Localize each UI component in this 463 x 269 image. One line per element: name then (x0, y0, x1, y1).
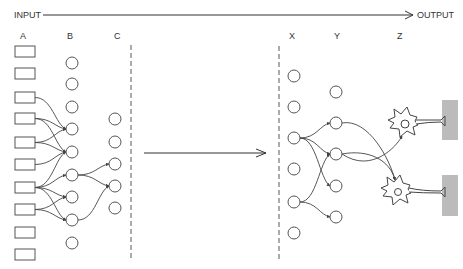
node-a-9 (15, 227, 35, 238)
node-c-3 (109, 158, 121, 170)
connection-6 (35, 152, 66, 188)
node-b-8 (66, 214, 78, 226)
node-a-6 (15, 159, 35, 170)
input-output-arrow (43, 11, 413, 19)
node-y-2 (330, 117, 342, 129)
node-x-3 (288, 132, 300, 144)
nucleus-icon (395, 189, 402, 196)
node-x-1 (288, 70, 300, 82)
connection-22 (342, 153, 395, 180)
connections (35, 98, 402, 221)
connection-7 (35, 175, 66, 188)
neural-pathway-diagram: INPUT OUTPUT A B C X Y Z (0, 0, 463, 269)
connection-9 (35, 188, 66, 221)
node-a-8 (15, 204, 35, 215)
connection-15 (300, 123, 330, 138)
connection-13 (78, 175, 109, 186)
motor-neuron-1 (388, 100, 457, 140)
node-b-6 (66, 169, 78, 181)
node-b-5 (66, 146, 78, 158)
connection-3 (35, 129, 66, 143)
node-a-10 (15, 249, 35, 260)
connection-20 (342, 123, 395, 180)
node-b-4 (66, 123, 78, 135)
connection-5 (35, 152, 66, 165)
column-label-a: A (20, 31, 26, 41)
node-a-7 (15, 182, 35, 193)
input-label: INPUT (14, 10, 42, 20)
node-b-3 (66, 101, 78, 113)
node-a-1 (15, 46, 35, 57)
connection-1 (35, 119, 66, 130)
node-x-6 (288, 227, 300, 239)
node-b-1 (66, 57, 78, 69)
axon-icon (409, 187, 445, 197)
node-y-1 (330, 86, 342, 98)
transform-arrow (144, 149, 266, 157)
node-a-4 (15, 113, 35, 124)
node-c-2 (109, 136, 121, 148)
column-label-x: X (289, 31, 295, 41)
axon-icon (416, 116, 445, 126)
motor-neurons (381, 100, 457, 216)
connection-14 (78, 186, 109, 220)
column-label-z: Z (397, 31, 403, 41)
node-b-7 (66, 191, 78, 203)
column-label-b: B (67, 31, 73, 41)
column-label-y: Y (334, 31, 340, 41)
connection-12 (78, 164, 109, 175)
nucleus-icon (401, 120, 409, 128)
node-y-3 (330, 148, 342, 160)
column-label-c: C (114, 31, 121, 41)
connection-21 (342, 136, 402, 161)
node-y-4 (330, 180, 342, 192)
node-x-5 (288, 196, 300, 208)
node-c-1 (109, 113, 121, 125)
connection-17 (300, 138, 330, 186)
node-a-2 (15, 68, 35, 79)
node-b-9 (66, 237, 78, 249)
connection-11 (35, 210, 66, 221)
node-a-3 (15, 92, 35, 103)
node-y-5 (330, 211, 342, 223)
node-c-5 (109, 202, 121, 214)
connection-16 (300, 138, 330, 154)
connection-18 (300, 154, 330, 202)
connection-2 (35, 119, 66, 153)
connection-19 (300, 202, 330, 217)
connection-8 (35, 188, 66, 198)
node-c-4 (109, 180, 121, 192)
output-label: OUTPUT (417, 10, 455, 20)
node-b-2 (66, 78, 78, 90)
motor-neuron-2 (381, 175, 457, 216)
node-x-4 (288, 163, 300, 175)
node-x-2 (288, 101, 300, 113)
connection-0 (35, 98, 66, 130)
node-a-5 (15, 137, 35, 148)
